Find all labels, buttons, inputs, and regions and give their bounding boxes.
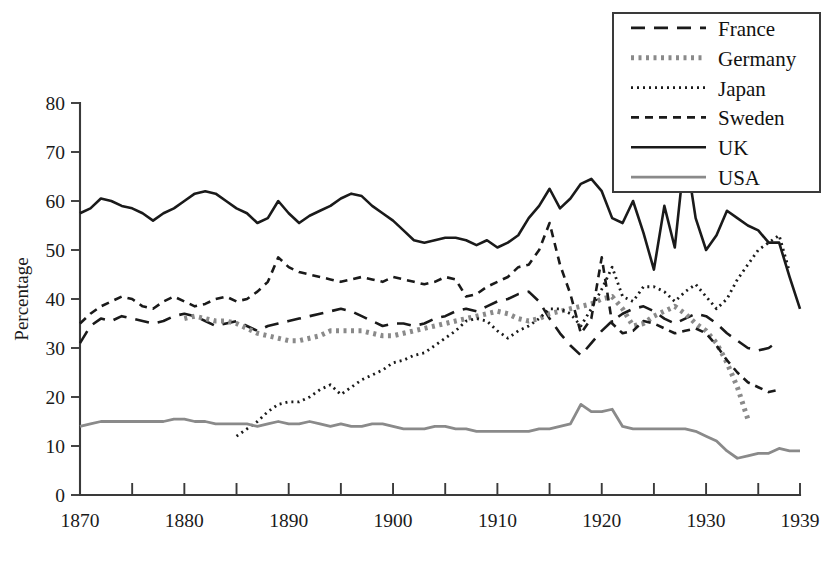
chart-figure: 0102030405060708018701880189019001910192… <box>0 0 837 561</box>
chart-legend: FranceGermanyJapanSwedenUKUSA <box>613 13 820 192</box>
legend-label: USA <box>718 166 761 190</box>
x-tick-label: 1900 <box>374 510 413 531</box>
y-axis-label: Percentage <box>11 257 32 340</box>
y-tick-label: 50 <box>46 240 66 261</box>
x-tick-label: 1920 <box>582 510 621 531</box>
legend-label: Sweden <box>718 106 785 130</box>
x-tick-label: 1890 <box>269 510 308 531</box>
data-series-group <box>80 150 800 459</box>
x-tick-label: 1870 <box>61 510 100 531</box>
legend-box <box>613 13 820 192</box>
legend-label: UK <box>718 136 748 160</box>
y-tick-label: 80 <box>46 93 66 114</box>
chart-canvas: 0102030405060708018701880189019001910192… <box>0 0 837 561</box>
y-tick-label: 70 <box>46 142 66 163</box>
legend-label: France <box>718 17 775 41</box>
legend-label: Germany <box>718 47 797 71</box>
y-tick-label: 20 <box>46 387 66 408</box>
legend-label: Japan <box>718 77 766 101</box>
x-tick-label: 1939 <box>781 510 820 531</box>
y-tick-label: 60 <box>46 191 66 212</box>
y-axis-title: Percentage <box>11 257 32 340</box>
series-line-germany <box>184 297 747 420</box>
y-tick-label: 40 <box>46 289 66 310</box>
series-line-japan <box>237 235 790 436</box>
y-tick-label: 30 <box>46 338 66 359</box>
y-tick-label: 10 <box>46 436 66 457</box>
x-tick-label: 1930 <box>687 510 726 531</box>
y-tick-label: 0 <box>55 485 65 506</box>
x-tick-label: 1910 <box>478 510 517 531</box>
series-line-usa <box>80 404 800 458</box>
x-tick-label: 1880 <box>165 510 204 531</box>
